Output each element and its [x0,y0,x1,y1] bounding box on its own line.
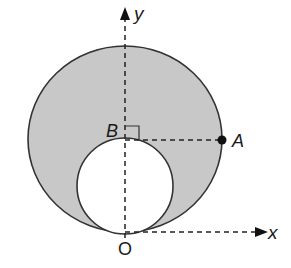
geometry-diagram: y x O A B [0,0,291,268]
point-b-label: B [106,121,118,141]
y-axis-arrow-icon [120,7,130,20]
point-a-label: A [231,131,244,151]
y-axis-label: y [132,3,145,24]
x-axis-arrow-icon [255,227,268,237]
origin-label: O [118,239,132,259]
x-axis-label: x [267,222,279,243]
point-a-dot [218,136,227,145]
